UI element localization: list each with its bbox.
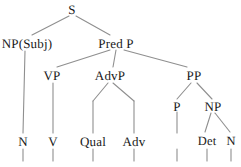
node-pp: PP bbox=[187, 69, 202, 82]
edge-advp-adv-diag bbox=[113, 83, 134, 101]
node-advp: AdvP bbox=[95, 69, 125, 82]
node-adv: Adv bbox=[123, 135, 146, 148]
node-np-subj: NP(Subj) bbox=[2, 37, 53, 50]
node-p: P bbox=[173, 100, 180, 113]
node-pred-p: Pred P bbox=[98, 37, 134, 50]
edge-advp-qual-diag bbox=[93, 83, 108, 101]
node-det: Det bbox=[198, 135, 217, 148]
edge-predp-advp bbox=[113, 50, 116, 67]
node-n-subject: N bbox=[18, 135, 28, 148]
edge-np-det bbox=[205, 113, 211, 132]
node-v: V bbox=[48, 135, 58, 148]
edge-np-n bbox=[215, 113, 230, 132]
edge-npsubj-n bbox=[23, 51, 25, 133]
syntax-tree-diagram: S NP(Subj) Pred P VP AdvP PP P NP N V Qu… bbox=[0, 0, 241, 167]
edge-predp-pp bbox=[124, 50, 187, 67]
node-n-object: N bbox=[226, 135, 235, 148]
node-s: S bbox=[68, 3, 75, 16]
node-qual: Qual bbox=[80, 135, 106, 148]
node-vp: VP bbox=[43, 69, 60, 82]
edge-pp-np bbox=[197, 83, 212, 99]
edge-s-npsubj bbox=[32, 16, 69, 35]
node-np-obj: NP bbox=[204, 100, 221, 113]
edge-s-predp bbox=[76, 16, 110, 35]
edge-predp-vp bbox=[57, 50, 110, 67]
edge-pp-p bbox=[177, 83, 191, 99]
